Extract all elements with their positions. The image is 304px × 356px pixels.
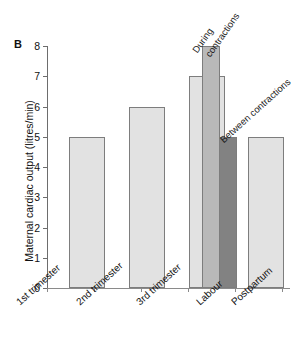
bar-1st-trimester	[69, 137, 105, 288]
y-tick-label: 3	[34, 192, 40, 203]
bar-labour-during-contractions	[202, 46, 220, 288]
y-tick-mark	[43, 107, 47, 108]
y-tick-label: 5	[34, 132, 40, 143]
y-tick-mark	[43, 137, 47, 138]
y-tick-mark	[43, 167, 47, 168]
y-tick-label: 7	[34, 71, 40, 82]
panel-letter: B	[14, 38, 22, 50]
y-tick-label: 6	[34, 101, 40, 112]
y-tick-mark	[43, 228, 47, 229]
y-tick-mark	[43, 46, 47, 47]
x-tick-mark	[188, 288, 189, 292]
bar-labour-between-contractions	[219, 137, 237, 288]
y-tick-label: 1	[34, 253, 40, 264]
x-tick-mark	[282, 288, 283, 292]
bar-2nd-trimester	[129, 107, 165, 289]
figure-panel-b: B Maternal cardiac output (litres/min) 0…	[0, 0, 304, 356]
y-tick-label: 8	[34, 41, 40, 52]
plot-area: 0 1 2 3 4 5 6 7	[47, 46, 290, 288]
y-tick-label: 4	[34, 162, 40, 173]
y-tick-mark	[43, 197, 47, 198]
y-tick-mark	[43, 76, 47, 77]
y-tick-label: 2	[34, 222, 40, 233]
x-tick-mark	[47, 288, 48, 292]
y-axis-line	[47, 46, 48, 288]
y-tick-mark	[43, 258, 47, 259]
